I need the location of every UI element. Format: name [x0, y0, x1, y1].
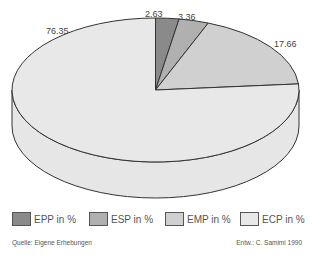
legend-label-epp: EPP in %: [34, 214, 76, 225]
slice-label-epp: 2.63: [145, 10, 163, 19]
legend-item-ecp: ECP in %: [240, 211, 305, 227]
legend-label-ecp: ECP in %: [262, 214, 305, 225]
slice-label-ecp: 76.35: [46, 27, 69, 36]
legend-item-emp: EMP in %: [165, 211, 231, 227]
legend-item-epp: EPP in %: [12, 211, 76, 227]
legend-swatch-esp: [89, 212, 108, 226]
chart-legend: EPP in % ESP in % EMP in % ECP in %: [0, 211, 320, 227]
legend-swatch-emp: [165, 212, 184, 226]
legend-label-emp: EMP in %: [187, 214, 231, 225]
legend-item-esp: ESP in %: [89, 211, 153, 227]
slice-label-esp: 3.36: [178, 13, 196, 22]
legend-swatch-epp: [12, 212, 31, 226]
pie-top-face: [12, 18, 299, 162]
source-note: Quelle: Eigene Erhebungen: [12, 239, 92, 246]
legend-label-esp: ESP in %: [111, 214, 153, 225]
slice-label-emp: 17.66: [274, 40, 297, 49]
author-note: Entw.: C. Samimi 1990: [236, 239, 302, 246]
legend-swatch-ecp: [240, 212, 259, 226]
